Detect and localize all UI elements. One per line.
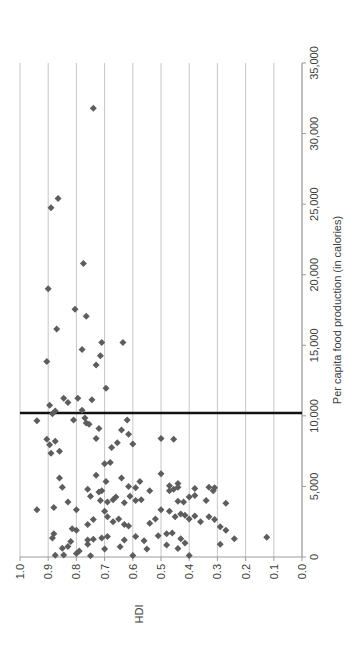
- data-point: [231, 535, 238, 542]
- scatter-plot-canvas: 05,00010,00015,00020,00025,00030,00035,0…: [0, 0, 354, 661]
- y-tick-label: 0.9: [42, 564, 54, 579]
- data-point: [45, 285, 52, 292]
- data-point: [158, 435, 165, 442]
- data-point: [93, 362, 100, 369]
- data-point: [117, 543, 124, 550]
- y-tick-label: 0.1: [268, 564, 280, 579]
- data-point: [263, 534, 270, 541]
- x-tick-label: 20,000: [308, 258, 320, 292]
- y-axis-title: HDI: [133, 589, 145, 639]
- data-point: [163, 530, 170, 537]
- data-point: [222, 527, 229, 534]
- data-point: [174, 545, 181, 552]
- data-point: [83, 313, 90, 320]
- data-point: [118, 426, 125, 433]
- data-point: [141, 537, 148, 544]
- data-point: [203, 497, 210, 504]
- data-point: [52, 438, 59, 445]
- data-point: [121, 537, 128, 544]
- data-point: [158, 470, 165, 477]
- data-point: [74, 395, 81, 402]
- data-point: [103, 385, 110, 392]
- data-point: [222, 500, 229, 507]
- data-point: [125, 483, 132, 490]
- data-point: [146, 520, 153, 527]
- x-tick-label: 35,000: [308, 46, 320, 80]
- data-point: [191, 492, 198, 499]
- data-point: [125, 431, 132, 438]
- data-point: [146, 487, 153, 494]
- data-point: [180, 498, 187, 505]
- y-tick-label: 0.0: [296, 564, 308, 579]
- data-point: [169, 530, 176, 537]
- data-point: [101, 545, 108, 552]
- data-point: [101, 508, 108, 515]
- y-tick-label: 0.7: [99, 564, 111, 579]
- y-tick-label: 1.0: [14, 564, 26, 579]
- y-tick-label: 0.3: [211, 564, 223, 579]
- data-point: [87, 493, 94, 500]
- scatter-chart: 05,00010,00015,00020,00025,00030,00035,0…: [0, 0, 354, 661]
- data-point: [64, 399, 71, 406]
- y-tick-label: 0.6: [127, 564, 139, 579]
- data-point: [93, 472, 100, 479]
- x-tick-label: 5,000: [308, 473, 320, 501]
- data-point: [158, 506, 165, 513]
- data-point: [87, 552, 94, 559]
- data-point: [97, 497, 104, 504]
- data-point: [90, 516, 97, 523]
- data-point: [46, 402, 53, 409]
- data-point: [115, 515, 122, 522]
- data-point: [129, 552, 136, 559]
- x-tick-label: 0: [308, 554, 320, 560]
- data-point: [197, 518, 204, 525]
- data-point: [172, 513, 179, 520]
- data-point: [93, 435, 100, 442]
- data-point: [166, 508, 173, 515]
- data-point: [118, 474, 125, 481]
- data-point: [88, 396, 95, 403]
- data-point: [107, 459, 114, 466]
- y-tick-label: 0.8: [70, 564, 82, 579]
- data-point: [71, 306, 78, 313]
- data-point: [90, 536, 97, 543]
- data-point: [84, 521, 91, 528]
- data-point: [191, 513, 198, 520]
- data-point: [174, 498, 181, 505]
- data-point: [33, 417, 40, 424]
- rotated-scatter-chart-screenshot: 05,00010,00015,00020,00025,00030,00035,0…: [0, 0, 354, 661]
- data-point: [90, 105, 97, 112]
- x-tick-label: 10,000: [308, 399, 320, 433]
- data-point: [136, 478, 143, 485]
- data-point: [205, 513, 212, 520]
- data-point: [181, 539, 188, 546]
- data-point: [163, 542, 170, 549]
- data-point: [103, 478, 110, 485]
- data-point: [177, 535, 184, 542]
- data-point: [59, 484, 66, 491]
- data-point: [52, 552, 59, 559]
- x-tick-label: 25,000: [308, 187, 320, 221]
- data-point: [121, 499, 128, 506]
- data-point: [80, 260, 87, 267]
- data-point: [110, 518, 117, 525]
- data-point: [84, 541, 91, 548]
- x-axis-title: Per capita food production (in calories): [331, 63, 343, 557]
- data-point: [186, 552, 193, 559]
- data-point: [101, 460, 108, 467]
- data-point: [84, 486, 91, 493]
- data-point: [114, 439, 121, 446]
- data-point: [53, 326, 60, 333]
- data-point: [138, 496, 145, 503]
- data-point: [56, 448, 63, 455]
- data-point: [191, 485, 198, 492]
- data-point: [79, 346, 86, 353]
- data-point: [124, 417, 131, 424]
- data-point: [143, 545, 150, 552]
- y-tick-label: 0.5: [155, 564, 167, 579]
- data-point: [50, 504, 57, 511]
- data-point: [97, 352, 104, 359]
- data-point: [59, 545, 66, 552]
- x-tick-label: 15,000: [308, 328, 320, 362]
- data-point: [73, 506, 80, 513]
